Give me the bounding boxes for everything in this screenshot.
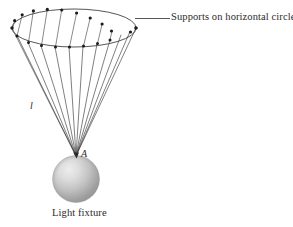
support-point: [16, 35, 19, 38]
support-point: [129, 30, 132, 33]
cable: [76, 40, 110, 156]
rim-strut: [56, 10, 62, 47]
support-point: [46, 8, 49, 11]
support-point: [110, 29, 113, 32]
support-point-group: [10, 8, 138, 49]
cable: [28, 43, 76, 157]
rim-strut: [98, 24, 103, 44]
support-point: [68, 46, 71, 49]
cable-length-label: l: [30, 100, 33, 111]
support-point: [75, 11, 78, 14]
support-point: [109, 39, 112, 42]
support-point: [89, 16, 92, 19]
support-point: [60, 8, 63, 11]
cable: [76, 44, 97, 156]
rim-strut: [70, 13, 77, 47]
support-point: [13, 19, 16, 22]
support-point: [10, 26, 13, 29]
cable: [76, 28, 136, 156]
support-point: [40, 44, 43, 47]
cable: [76, 32, 130, 157]
cable: [69, 47, 76, 156]
support-point: [32, 9, 35, 12]
support-point: [27, 41, 30, 44]
rim-strut: [29, 11, 34, 43]
cable: [18, 37, 77, 157]
support-point: [21, 13, 24, 16]
light-fixture-label: Light fixture: [52, 207, 107, 219]
cable: [41, 46, 76, 156]
support-point: [96, 42, 99, 45]
light-fixture-sphere: [53, 156, 100, 203]
figure-canvas: [0, 0, 293, 227]
attachment-point-label: A: [81, 148, 87, 159]
support-point: [101, 22, 104, 25]
cable: [55, 47, 76, 156]
support-point: [82, 45, 85, 48]
support-point: [134, 26, 138, 30]
rim-strut: [84, 18, 91, 46]
physics-figure: Supports on horizontal circle Light fixt…: [0, 0, 293, 227]
support-point: [54, 45, 57, 48]
rim-strut: [42, 9, 48, 45]
supports-label: Supports on horizontal circle: [171, 11, 293, 23]
